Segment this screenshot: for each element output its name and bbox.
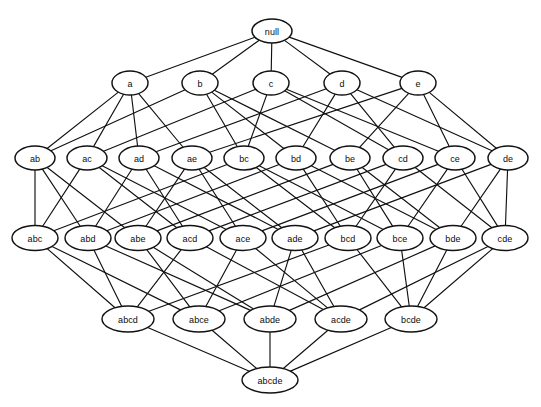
lattice-node-abde[interactable]: abde bbox=[244, 306, 296, 332]
lattice-edge bbox=[311, 166, 436, 230]
lattice-edge bbox=[256, 248, 328, 307]
lattice-edge bbox=[51, 90, 185, 151]
lattice-edge bbox=[418, 250, 447, 306]
lattice-edge bbox=[139, 94, 183, 148]
lattice-node-acde[interactable]: acde bbox=[315, 306, 367, 332]
lattice-node-ad[interactable]: ad bbox=[119, 146, 159, 170]
lattice-edge bbox=[424, 249, 493, 308]
lattice-node-ab[interactable]: ab bbox=[15, 146, 55, 170]
node-label: acde bbox=[331, 315, 351, 325]
lattice-node-abcd[interactable]: abcd bbox=[102, 306, 154, 332]
node-label: abc bbox=[28, 234, 43, 244]
lattice-edge bbox=[286, 89, 438, 151]
lattice-node-be[interactable]: be bbox=[330, 146, 370, 170]
lattice-edge bbox=[212, 330, 257, 368]
node-label: null bbox=[265, 27, 279, 37]
lattice-node-bcd[interactable]: bcd bbox=[325, 226, 371, 251]
lattice-node-acd[interactable]: acd bbox=[167, 226, 213, 251]
node-label: bcde bbox=[401, 315, 421, 325]
node-label: b bbox=[197, 79, 202, 89]
node-label: abcd bbox=[118, 315, 138, 325]
lattice-node-ae[interactable]: ae bbox=[172, 146, 212, 170]
lattice-node-bce[interactable]: bce bbox=[377, 226, 423, 251]
lattice-edge bbox=[357, 250, 402, 307]
lattice-edge bbox=[137, 250, 181, 307]
lattice-edge bbox=[212, 40, 259, 74]
lattice-node-bd[interactable]: bd bbox=[276, 146, 316, 170]
node-label: ac bbox=[82, 154, 92, 164]
node-label: acd bbox=[183, 234, 198, 244]
node-label: ad bbox=[134, 154, 144, 164]
node-label: abd bbox=[80, 234, 95, 244]
lattice-edge bbox=[154, 166, 278, 230]
lattice-edge bbox=[104, 89, 256, 151]
lattice-node-ade[interactable]: ade bbox=[272, 226, 318, 251]
node-label: de bbox=[503, 154, 513, 164]
node-label: bc bbox=[239, 154, 249, 164]
lattice-node-bc[interactable]: bc bbox=[224, 146, 264, 170]
node-label: ae bbox=[187, 154, 197, 164]
lattice-edge bbox=[47, 92, 118, 148]
node-label: d bbox=[339, 79, 344, 89]
lattice-node-abe[interactable]: abe bbox=[115, 226, 161, 251]
node-label: bd bbox=[291, 154, 301, 164]
lattice-node-d[interactable]: d bbox=[324, 71, 360, 95]
lattice-node-ac[interactable]: ac bbox=[67, 146, 107, 170]
lattice-edge bbox=[285, 40, 330, 74]
lattice-edge bbox=[54, 164, 227, 230]
node-label: cde bbox=[498, 234, 513, 244]
lattice-edge bbox=[274, 250, 291, 306]
node-label: abe bbox=[130, 234, 145, 244]
lattice-edge bbox=[149, 245, 329, 311]
lattice-edge bbox=[271, 43, 272, 71]
node-label: ade bbox=[287, 234, 302, 244]
node-label: be bbox=[345, 154, 355, 164]
lattice-edge bbox=[429, 92, 496, 148]
lattice-node-de[interactable]: de bbox=[488, 146, 528, 170]
lattice-node-a[interactable]: a bbox=[112, 71, 148, 95]
lattice-node-ce[interactable]: ce bbox=[435, 146, 475, 170]
lattice-edge bbox=[47, 249, 115, 308]
lattice-node-abd[interactable]: abd bbox=[65, 226, 111, 251]
lattice-edge bbox=[157, 164, 333, 230]
lattice-edge bbox=[424, 94, 450, 146]
node-label: ace bbox=[236, 234, 251, 244]
lattice-node-abcde[interactable]: abcde bbox=[242, 367, 298, 393]
lattice-edge bbox=[357, 90, 492, 151]
lattice-node-bcde[interactable]: bcde bbox=[385, 306, 437, 332]
node-label: cd bbox=[398, 154, 408, 164]
lattice-node-abc[interactable]: abc bbox=[12, 226, 58, 251]
lattice-edge bbox=[107, 164, 279, 230]
node-label: a bbox=[127, 79, 132, 89]
lattice-node-c[interactable]: c bbox=[253, 71, 289, 95]
node-label: bce bbox=[393, 234, 408, 244]
lattice-node-ace[interactable]: ace bbox=[220, 226, 266, 251]
lattice-edge bbox=[283, 330, 328, 368]
lattice-edge bbox=[207, 94, 238, 146]
lattice-canvas: nullabcdeabacadaebcbdbecdcedeabcabdabeac… bbox=[0, 0, 541, 407]
lattice-node-bde[interactable]: bde bbox=[430, 226, 476, 251]
lattice-edge bbox=[351, 94, 395, 148]
lattice-edge bbox=[360, 93, 409, 147]
lattice-edge bbox=[94, 94, 124, 146]
lattice-edge bbox=[96, 169, 132, 226]
node-label: abcde bbox=[257, 376, 282, 386]
lattice-edge bbox=[52, 246, 180, 309]
node-label: bde bbox=[445, 234, 460, 244]
node-label: abce bbox=[189, 315, 209, 325]
node-label: ab bbox=[30, 154, 40, 164]
node-label: e bbox=[415, 79, 420, 89]
node-label: c bbox=[269, 79, 274, 89]
node-label: ce bbox=[450, 154, 460, 164]
lattice-node-null[interactable]: null bbox=[252, 19, 292, 43]
lattice-node-e[interactable]: e bbox=[400, 71, 436, 95]
lattice-node-abce[interactable]: abce bbox=[173, 306, 225, 332]
subset-lattice-diagram: nullabcdeabacadaebcbdbecdcedeabcabdabeac… bbox=[0, 0, 541, 407]
lattice-node-b[interactable]: b bbox=[182, 71, 218, 95]
lattice-node-cde[interactable]: cde bbox=[482, 226, 528, 251]
lattice-node-cd[interactable]: cd bbox=[383, 146, 423, 170]
node-label: abde bbox=[260, 315, 280, 325]
lattice-edge bbox=[206, 250, 237, 306]
lattice-edge bbox=[505, 170, 507, 226]
node-label: bcd bbox=[341, 234, 356, 244]
